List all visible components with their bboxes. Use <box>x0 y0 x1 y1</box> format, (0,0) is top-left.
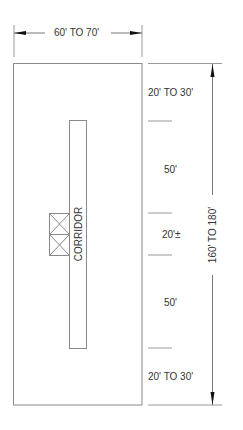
arrow-down-icon <box>211 392 215 405</box>
width-dimension-label: 60' TO 70' <box>54 27 99 38</box>
segment-label-north-wing: 50' <box>164 164 177 175</box>
segment-label-top-setback: 20' TO 30' <box>148 87 193 98</box>
segment-label-bottom-setback: 20' TO 30' <box>148 371 193 382</box>
corridor-label: CORRIDOR <box>73 207 84 261</box>
elevator-core-icon <box>50 214 70 256</box>
length-dimension-label: 160' TO 180' <box>207 207 218 263</box>
arrow-right-icon <box>130 31 142 35</box>
arrow-left-icon <box>14 31 26 35</box>
arrow-up-icon <box>211 64 215 77</box>
segment-label-south-wing: 50' <box>164 297 177 308</box>
segment-label-core: 20'± <box>162 229 181 240</box>
